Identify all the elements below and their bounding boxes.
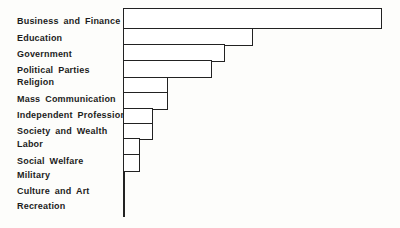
category-label-political-parties: Political Parties [17,65,90,74]
category-label-social-welfare: Social Welfare [17,157,83,166]
category-label-education: Education [17,33,62,42]
bar-government [123,44,225,61]
category-label-recreation: Recreation [17,202,66,211]
category-label-government: Government [17,50,72,59]
category-label-independent-professions: Independent Professions [17,111,131,120]
bar-education [123,28,253,46]
category-label-business-and-finance: Business and Finance [17,17,120,26]
bar-business-and-finance [123,8,382,29]
category-label-mass-communication: Mass Communication [17,94,116,103]
bar-chart: Business and FinanceEducationGovernmentP… [0,0,400,228]
category-label-religion: Religion [17,78,54,87]
category-label-culture-and-art: Culture and Art [17,186,90,195]
bar-religion [123,77,168,94]
bar-labor [123,138,140,156]
category-label-society-and-wealth: Society and Wealth [17,126,107,135]
category-label-labor: Labor [17,140,43,149]
bar-social-welfare [123,154,140,171]
bar-political-parties [123,60,212,78]
bar-mass-communication [123,92,168,110]
category-label-military: Military [17,171,50,180]
